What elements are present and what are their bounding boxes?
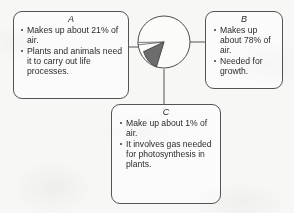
air-composition-diagram: A Makes up about 21% of air. Plants and … xyxy=(0,0,294,213)
box-c-bullet-list: Make up about 1% of air. It involves gas… xyxy=(112,118,220,169)
box-b-bullet-2: Needed for growth. xyxy=(213,56,279,76)
box-c-bullet-1: Make up about 1% of air. xyxy=(119,118,217,138)
pie-chart-svg xyxy=(137,15,191,69)
info-box-c: C Make up about 1% of air. It involves g… xyxy=(111,104,221,204)
box-a-bullet-2: Plants and animals need it to carry out … xyxy=(20,46,125,76)
box-a-letter: A xyxy=(14,14,128,24)
box-a-bullet-1: Makes up about 21% of air. xyxy=(20,25,125,45)
air-composition-pie-chart xyxy=(137,15,191,69)
box-b-bullet-1: Makes up about 78% of air. xyxy=(213,25,279,55)
box-b-letter: B xyxy=(206,14,282,24)
box-a-bullet-list: Makes up about 21% of air. Plants and an… xyxy=(14,25,128,76)
info-box-b: B Makes up about 78% of air. Needed for … xyxy=(205,11,283,89)
box-c-bullet-2: It involves gas needed for photosynthesi… xyxy=(119,139,217,169)
box-b-bullet-list: Makes up about 78% of air. Needed for gr… xyxy=(206,25,282,76)
box-c-letter: C xyxy=(112,107,220,117)
info-box-a: A Makes up about 21% of air. Plants and … xyxy=(13,11,129,99)
